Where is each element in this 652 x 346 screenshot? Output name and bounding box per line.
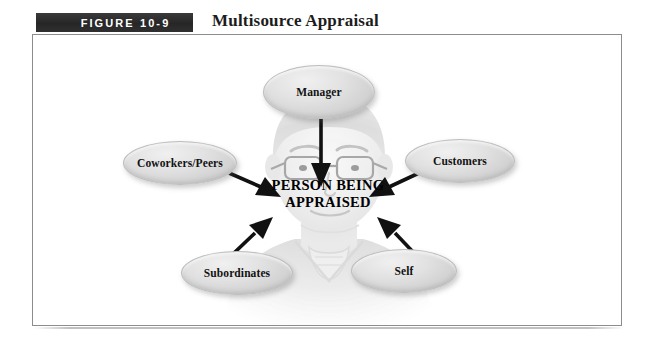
figure-number-badge: FIGURE 10-9: [36, 13, 193, 32]
frame-drop-shadow: [34, 327, 624, 329]
node-self-label: Self: [395, 265, 414, 277]
node-subordinates[interactable]: Subordinates: [181, 251, 293, 295]
node-customers-label: Customers: [433, 155, 487, 167]
node-coworkers-label: Coworkers/Peers: [137, 157, 223, 169]
center-label-line2: APPRAISED: [228, 194, 428, 211]
figure-header: FIGURE 10-9 Multisource Appraisal: [0, 0, 652, 34]
node-coworkers[interactable]: Coworkers/Peers: [123, 141, 237, 185]
figure-title: Multisource Appraisal: [212, 11, 379, 31]
figure-frame: Manager Coworkers/Peers Customers Subord…: [32, 34, 622, 326]
center-label-line1: PERSON BEING: [272, 177, 385, 193]
node-subordinates-label: Subordinates: [204, 267, 270, 279]
node-self[interactable]: Self: [351, 249, 457, 293]
center-label: PERSON BEING APPRAISED: [228, 177, 428, 211]
node-manager-label: Manager: [296, 86, 341, 98]
node-manager[interactable]: Manager: [263, 65, 375, 119]
